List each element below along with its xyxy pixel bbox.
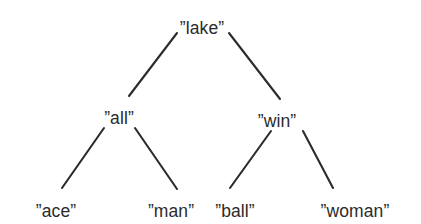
tree-edge-all-ace [62, 128, 104, 188]
tree-edge-lake-all [129, 33, 177, 96]
tree-edge-all-man [135, 128, 177, 189]
tree-edge-win-ball [230, 131, 271, 188]
binary-tree-diagram: ”lake” ”all” ”win” ”ace” ”man” ”ball” ”w… [0, 0, 421, 224]
tree-edge-win-woman [303, 131, 333, 188]
tree-node-all: ”all” [104, 110, 134, 128]
tree-node-win: ”win” [258, 113, 296, 131]
tree-node-ace: ”ace” [36, 203, 76, 221]
tree-node-woman: ”woman” [321, 203, 390, 221]
tree-node-man: ”man” [148, 203, 194, 221]
tree-node-lake: ”lake” [180, 20, 224, 38]
tree-edge-lake-win [229, 33, 280, 99]
tree-node-ball: ”ball” [215, 203, 255, 221]
